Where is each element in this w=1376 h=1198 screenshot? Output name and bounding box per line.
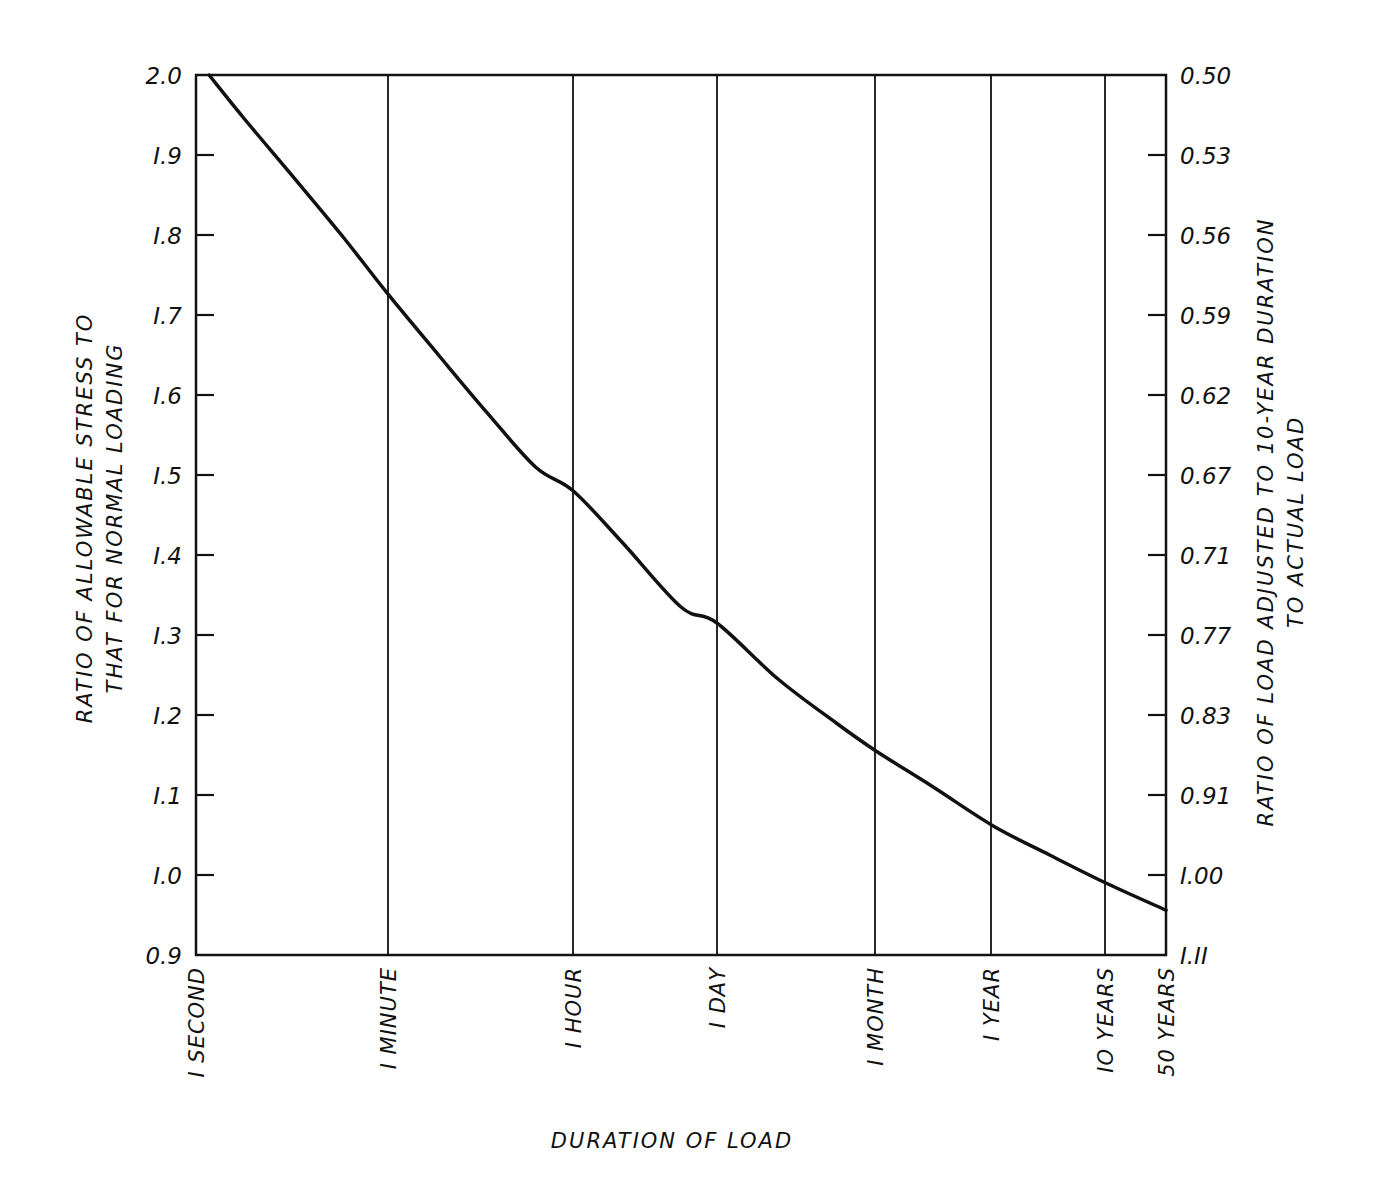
x-category-label: IO YEARS (1094, 967, 1118, 1073)
right-tick-label: 0.71 (1180, 543, 1231, 569)
x-category-label: I HOUR (562, 967, 586, 1048)
x-category-label: I MINUTE (377, 967, 401, 1069)
right-tick-label: I.II (1180, 943, 1208, 969)
duration-of-load-chart: 2.0I.9I.8I.7I.6I.5I.4I.3I.2I.1I.00.9 0.5… (0, 0, 1376, 1198)
left-tick-label: I.6 (153, 383, 182, 409)
left-tick-label: I.9 (153, 143, 182, 169)
left-tick-label: I.5 (153, 463, 182, 489)
right-tick-label: 0.62 (1180, 383, 1231, 409)
x-category-label: 50 YEARS (1155, 967, 1179, 1077)
left-tick-label: I.8 (153, 223, 182, 249)
x-category-label: I SECOND (185, 967, 209, 1078)
right-y-axis-title-line-1: RATIO OF LOAD ADJUSTED TO 10-YEAR DURATI… (1254, 218, 1278, 827)
right-tick-label: 0.59 (1180, 303, 1231, 329)
right-tick-label: 0.53 (1180, 143, 1231, 169)
left-tick-label: I.1 (153, 783, 182, 809)
right-tick-label: 0.83 (1180, 703, 1231, 729)
right-tick-label: 0.91 (1180, 783, 1231, 809)
right-tick-label: 0.50 (1180, 63, 1231, 89)
left-y-axis-title-line-2: THAT FOR NORMAL LOADING (103, 343, 127, 694)
left-tick-label: I.3 (153, 623, 182, 649)
right-tick-label: 0.77 (1180, 623, 1232, 649)
left-tick-label: 2.0 (145, 63, 182, 89)
left-tick-label: I.0 (153, 863, 182, 889)
left-tick-label: 0.9 (145, 943, 182, 969)
right-tick-label: 0.56 (1180, 223, 1231, 249)
right-tick-label: 0.67 (1180, 463, 1232, 489)
right-tick-label: I.00 (1180, 863, 1223, 889)
left-tick-label: I.7 (153, 303, 182, 329)
x-category-label: I DAY (706, 966, 730, 1028)
left-tick-label: I.4 (153, 543, 182, 569)
x-category-label: I YEAR (980, 967, 1004, 1041)
right-y-axis-title-line-2: TO ACTUAL LOAD (1284, 416, 1308, 628)
left-tick-label: I.2 (153, 703, 182, 729)
x-category-label: I MONTH (864, 967, 888, 1066)
left-y-axis-title-line-1: RATIO OF ALLOWABLE STRESS TO (73, 313, 97, 724)
x-axis-title: DURATION OF LOAD (551, 1129, 793, 1153)
